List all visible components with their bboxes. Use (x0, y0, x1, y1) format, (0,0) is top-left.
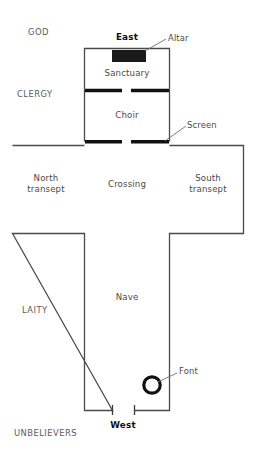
room-label-sanctuary: Sanctuary (105, 68, 150, 79)
room-label-nave: Nave (116, 292, 139, 303)
callout-label-altar: Altar (168, 33, 189, 44)
room-label-south-transept-line2: transept (189, 184, 226, 195)
callout-label-screen: Screen (187, 120, 217, 131)
room-label-south-transept-line1: South (195, 173, 221, 184)
room-label-choir: Choir (115, 110, 138, 121)
zone-label-clergy: CLERGY (17, 89, 53, 100)
font-leader-line (158, 373, 177, 382)
compass-label-west: West (110, 420, 136, 431)
altar-shape (112, 50, 146, 62)
room-label-north-transept-line1: North (34, 173, 59, 184)
callout-label-font: Font (179, 366, 198, 377)
zone-label-laity: LAITY (22, 305, 48, 316)
zone-label-god: GOD (28, 27, 49, 38)
zone-label-unbelievers: UNBELIEVERS (14, 428, 77, 439)
room-label-crossing: Crossing (108, 179, 146, 190)
compass-label-east: East (116, 32, 138, 43)
church-floor-plan-diagram: GOD CLERGY LAITY UNBELIEVERS East West S… (0, 0, 256, 458)
screen-leader-line (165, 126, 186, 141)
altar-leader-line (145, 39, 166, 51)
font-shape (144, 377, 160, 393)
room-label-north-transept-line2: transept (27, 184, 64, 195)
